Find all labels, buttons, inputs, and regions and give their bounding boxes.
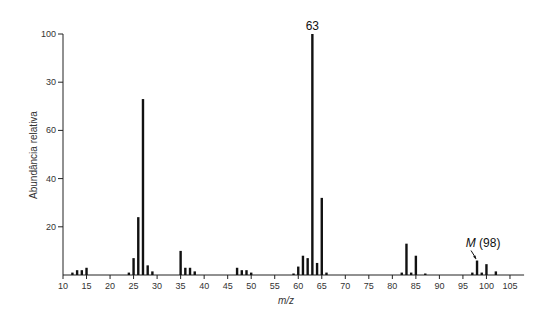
peak-bar: [184, 268, 186, 275]
y-tick-label: 60: [46, 125, 56, 135]
x-tick-label: 85: [411, 281, 421, 291]
arrowhead-icon: [473, 256, 476, 260]
peak-bar: [297, 267, 299, 275]
peak-bar: [146, 265, 148, 275]
x-tick-label: 65: [317, 281, 327, 291]
x-tick-label: 105: [502, 281, 517, 291]
peak-bar: [250, 273, 252, 275]
x-tick-label: 100: [479, 281, 494, 291]
peak-bar: [128, 273, 130, 275]
peak-bar: [424, 274, 426, 276]
peak-bar: [241, 270, 243, 275]
x-tick-label: 60: [293, 281, 303, 291]
peak-bar: [151, 271, 153, 275]
peak-bar: [245, 270, 247, 275]
peak-annotations: 63M (98): [306, 19, 501, 260]
x-tick-label: 25: [129, 281, 139, 291]
y-tick-label: 20: [46, 222, 56, 232]
x-tick-label: 10: [58, 281, 68, 291]
peak-bar: [81, 270, 83, 275]
peak-bar: [405, 244, 407, 275]
x-tick-label: 80: [387, 281, 397, 291]
peak-bar: [85, 268, 87, 275]
peak-bar: [292, 274, 294, 276]
x-tick-label: 30: [152, 281, 162, 291]
peak-bar: [76, 270, 78, 275]
x-axis: 1015202530354045505560657075808590951001…: [58, 275, 524, 291]
peak-bar: [236, 268, 238, 275]
peak-bar: [71, 273, 73, 275]
x-tick-label: 50: [246, 281, 256, 291]
peak-bar: [485, 264, 487, 275]
x-tick-label: 40: [199, 281, 209, 291]
peak-bar: [321, 198, 323, 275]
y-tick-label: 40: [46, 174, 56, 184]
peak-bar: [306, 258, 308, 275]
peak-bar: [410, 273, 412, 275]
x-tick-label: 75: [364, 281, 374, 291]
y-axis: 20406030100: [41, 29, 63, 275]
peak-bar: [189, 268, 191, 275]
peak-bar: [495, 271, 497, 275]
peak-bar: [476, 261, 478, 275]
peak-bar: [132, 258, 134, 275]
peak-bar: [316, 263, 318, 275]
peak-bar: [481, 273, 483, 275]
peak-bar: [471, 273, 473, 275]
base-peak-label: 63: [306, 19, 320, 33]
peak-bar: [302, 256, 304, 275]
peak-bar: [179, 251, 181, 275]
x-tick-label: 90: [434, 281, 444, 291]
molecular-ion-label: M (98): [466, 236, 501, 250]
y-tick-label: 100: [41, 29, 56, 39]
peak-bar: [194, 271, 196, 275]
spectrum-peaks: [71, 34, 497, 275]
y-axis-title: Abundância relativa: [28, 111, 39, 199]
x-tick-label: 20: [105, 281, 115, 291]
peak-bar: [325, 273, 327, 275]
peak-bar: [137, 217, 139, 275]
x-tick-label: 95: [458, 281, 468, 291]
peak-bar: [142, 99, 144, 275]
peak-bar: [401, 273, 403, 275]
x-tick-label: 35: [176, 281, 186, 291]
x-tick-label: 55: [270, 281, 280, 291]
x-axis-title: m/z: [278, 295, 294, 306]
mass-spectrum-chart: 20406030100 1015202530354045505560657075…: [0, 0, 555, 319]
peak-bar: [311, 34, 313, 275]
x-tick-label: 15: [82, 281, 92, 291]
x-tick-label: 70: [340, 281, 350, 291]
y-tick-label: 30: [46, 77, 56, 87]
x-tick-label: 45: [223, 281, 233, 291]
peak-bar: [415, 256, 417, 275]
